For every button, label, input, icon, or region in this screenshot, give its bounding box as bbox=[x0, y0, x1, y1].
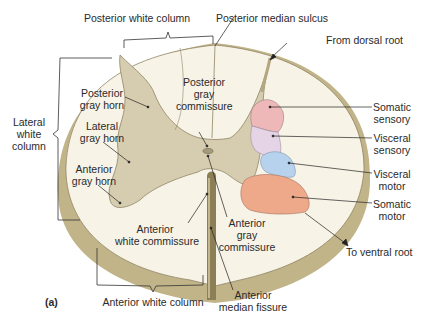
anterior-gray-horn-label: Anteriorgray horn bbox=[70, 163, 118, 187]
spinal-cord-drawing bbox=[0, 0, 431, 317]
visceral-sensory-label: Visceralsensory bbox=[370, 132, 414, 156]
spinal-cord-cross-section-figure: Posterior white column Posterior median … bbox=[0, 0, 431, 317]
posterior-gray-horn-label: Posteriorgray horn bbox=[78, 87, 126, 111]
visceral-motor-label: Visceralmotor bbox=[370, 168, 414, 192]
anterior-median-fissure-label: Anteriormedian fissure bbox=[215, 289, 291, 313]
anterior-white-column-label: Anterior white column bbox=[98, 296, 208, 308]
from-dorsal-root-label: From dorsal root bbox=[326, 34, 403, 46]
posterior-white-column-label: Posterior white column bbox=[84, 12, 190, 24]
to-ventral-root-label: To ventral root bbox=[346, 246, 413, 258]
posterior-white-column-bracket bbox=[124, 32, 213, 48]
posterior-gray-commissure-label: Posteriorgraycommissure bbox=[176, 76, 232, 112]
somatic-motor-label: Somaticmotor bbox=[370, 198, 414, 222]
panel-label: (a) bbox=[45, 296, 58, 308]
anterior-white-commissure-label: Anteriorwhite commissure bbox=[115, 223, 195, 247]
lateral-white-column-label: Lateralwhitecolumn bbox=[8, 116, 50, 152]
posterior-median-sulcus-label: Posterior median sulcus bbox=[216, 12, 328, 24]
lateral-gray-horn-label: Lateralgray horn bbox=[78, 120, 126, 144]
anterior-gray-commissure-label: Anteriorgraycommissure bbox=[218, 217, 276, 253]
central-canal bbox=[203, 149, 213, 154]
somatic-sensory-label: Somaticsensory bbox=[370, 101, 414, 125]
